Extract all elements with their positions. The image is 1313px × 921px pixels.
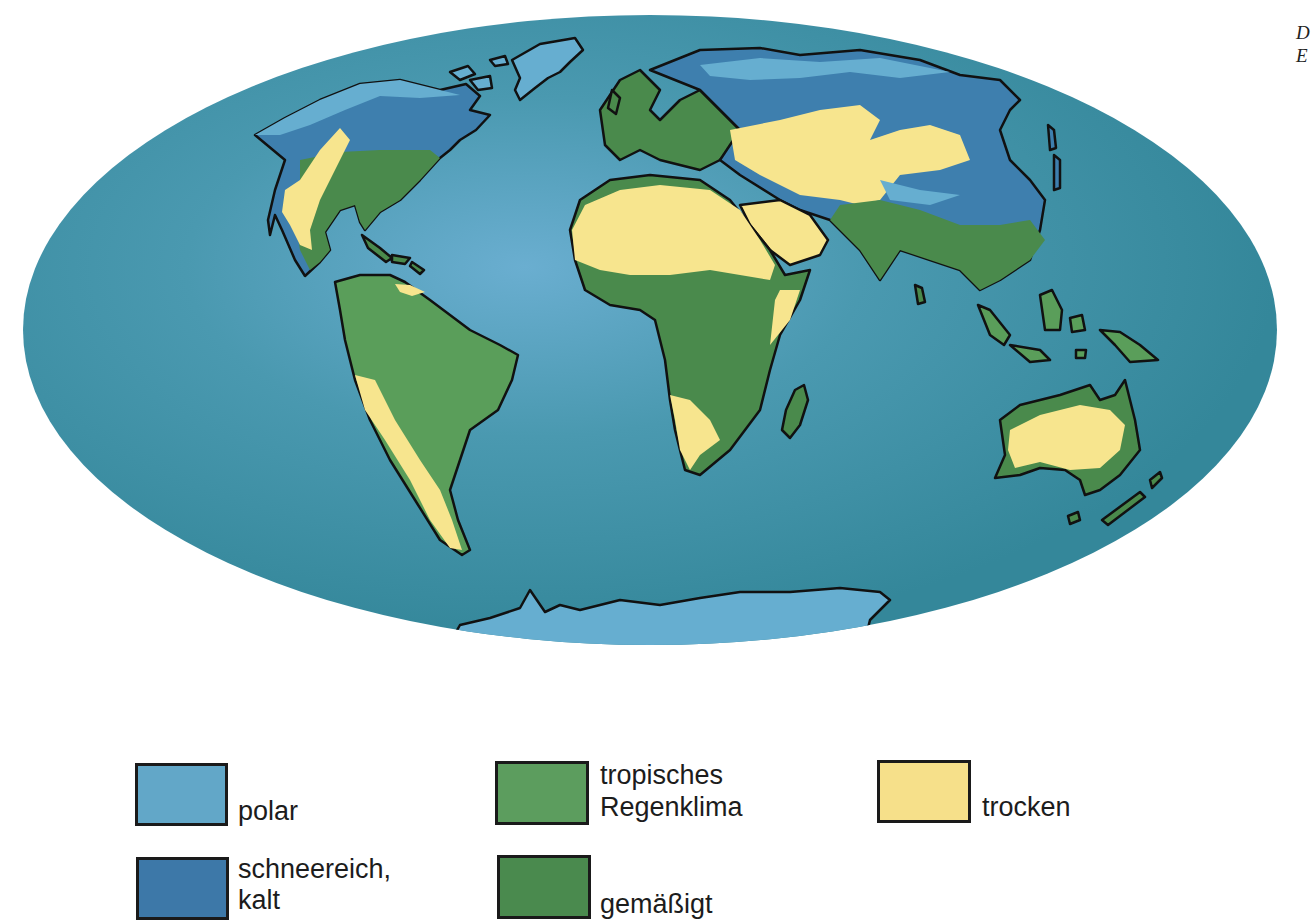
legend-swatch-tropical (495, 761, 589, 825)
legend-swatch-polar (135, 763, 228, 826)
legend-label-tropical-1: tropisches (600, 761, 723, 790)
legend-swatch-dry (877, 760, 971, 823)
legend-swatch-snow-cold (136, 857, 229, 920)
corner-text-line2: E (1296, 45, 1308, 67)
world-climate-map (0, 0, 1313, 700)
legend-label-polar: polar (238, 797, 298, 826)
legend-label-tropical-2: Regenklima (600, 793, 743, 822)
legend-label-dry: trocken (982, 793, 1071, 822)
legend-label-temperate: gemäßigt (600, 890, 713, 919)
legend-swatch-temperate (497, 855, 591, 919)
legend-label-snow-cold-2: kalt (238, 886, 280, 915)
corner-text-line1: D (1296, 22, 1310, 44)
legend-label-snow-cold-1: schneereich, (238, 855, 391, 884)
